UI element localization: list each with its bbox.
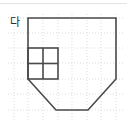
figure-canvas: 다 — [0, 0, 127, 122]
unit-square-grid — [28, 48, 58, 79]
figure-label: 다 — [10, 16, 20, 29]
background-dotted-grid — [8, 14, 125, 120]
geometry-figure: 다 — [0, 0, 127, 122]
